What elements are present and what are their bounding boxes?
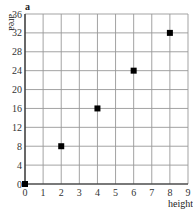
x-tick-label: 7 — [149, 187, 154, 198]
x-tick-label: 4 — [95, 187, 100, 198]
data-point-square — [167, 30, 173, 36]
y-tick-label: 0 — [17, 179, 22, 190]
y-tick-label: 32 — [12, 27, 22, 38]
x-axis-label: height — [168, 198, 193, 209]
y-tick-label: 28 — [12, 46, 22, 57]
y-tick-label: 8 — [17, 141, 22, 152]
x-tick-label: 3 — [77, 187, 82, 198]
x-tick-label: 1 — [41, 187, 46, 198]
y-tick-label: 4 — [17, 160, 22, 171]
axes — [25, 14, 188, 184]
y-tick-label: 36 — [12, 9, 22, 20]
grid — [25, 14, 188, 184]
data-point-square — [94, 105, 100, 111]
x-tick-label: 5 — [113, 187, 118, 198]
y-tick-label: 12 — [12, 122, 22, 133]
x-tick-label: 6 — [131, 187, 136, 198]
x-tick-label: 0 — [23, 187, 28, 198]
data-point-square — [22, 181, 28, 187]
data-point-square — [131, 68, 137, 74]
y-tick-label: 20 — [12, 84, 22, 95]
x-tick-label: 8 — [167, 187, 172, 198]
y-tick-label: 24 — [12, 65, 22, 76]
panel-label: a — [25, 1, 30, 12]
y-tick-label: 16 — [12, 103, 22, 114]
x-tick-label: 2 — [59, 187, 64, 198]
scatter-chart: a area 0123456789 04812162024283236 heig… — [0, 0, 193, 210]
data-point-square — [58, 143, 64, 149]
x-tick-labels: 0123456789 — [23, 187, 191, 198]
y-tick-labels: 04812162024283236 — [12, 9, 22, 190]
x-tick-label: 9 — [186, 187, 191, 198]
